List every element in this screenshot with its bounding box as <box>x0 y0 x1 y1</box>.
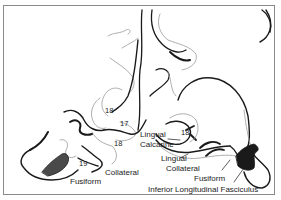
label-area-18-lower: 18 <box>114 140 122 148</box>
left-section-gray-contours <box>60 29 138 164</box>
label-calcarine: Calcarine <box>140 141 174 149</box>
label-area-18-right: 18 <box>181 129 189 137</box>
left-shaded-region <box>42 153 69 176</box>
label-area-19: 19 <box>79 160 87 168</box>
label-area-17: 17 <box>120 120 128 128</box>
label-collateral-right: Collateral <box>166 165 200 173</box>
brain-section-drawing <box>0 0 281 200</box>
label-fusiform-left: Fusiform <box>70 178 101 186</box>
label-lingual-upper: Lingual <box>140 131 166 139</box>
label-inferior-longitudinal-fasciculus: Inferior Longitudinal Fasciculus <box>148 186 258 194</box>
label-collateral-left: Collateral <box>105 169 139 177</box>
label-area-18-top: 18 <box>105 107 113 115</box>
label-lingual-lower: Lingual <box>161 155 187 163</box>
label-fusiform-right: Fusiform <box>194 175 225 183</box>
